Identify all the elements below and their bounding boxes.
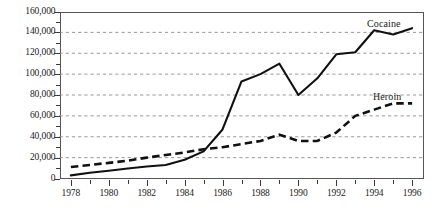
x-tick-major-1992 [336,180,337,186]
x-tick-major-1996 [412,180,413,186]
y-tick-major-60000 [54,116,60,117]
y-tick-label-160000: 160,000 [25,7,55,17]
series-label-heroin: Heroin [373,92,401,102]
y-tick-label-40000: 40,000 [30,132,56,142]
x-tick-major-1978 [71,180,72,186]
x-tick-label-1986: 1986 [203,189,243,199]
x-tick-minor-1993 [355,180,356,184]
y-tick-major-20000 [54,158,60,159]
y-tick-major-0 [54,179,60,180]
y-tick-label-140000: 140,000 [25,27,55,37]
drug-arrests-line-chart: 020,00040,00060,00080,000100,000120,0001… [0,0,446,212]
y-tick-major-140000 [54,32,60,33]
x-tick-minor-1985 [204,180,205,184]
x-tick-label-1980: 1980 [89,189,129,199]
x-tick-major-1980 [109,180,110,186]
x-tick-minor-1981 [128,180,129,184]
y-tick-minor-10000 [56,168,60,169]
y-tick-minor-90000 [56,85,60,86]
x-tick-major-1986 [223,180,224,186]
x-tick-label-1994: 1994 [354,189,394,199]
series-label-cocaine: Cocaine [367,19,400,29]
x-tick-label-1978: 1978 [51,189,91,199]
y-tick-major-80000 [54,95,60,96]
y-tick-minor-70000 [56,105,60,106]
x-tick-label-1982: 1982 [127,189,167,199]
x-tick-major-1990 [298,180,299,186]
x-tick-minor-1987 [242,180,243,184]
x-tick-label-1990: 1990 [278,189,318,199]
x-tick-label-1988: 1988 [240,189,280,199]
y-tick-major-40000 [54,137,60,138]
x-tick-major-1988 [260,180,261,186]
x-tick-minor-1989 [279,180,280,184]
x-tick-label-1992: 1992 [316,189,356,199]
series-line-cocaine [71,28,412,175]
y-tick-major-160000 [54,12,60,13]
x-tick-label-1984: 1984 [165,189,205,199]
x-tick-minor-1983 [166,180,167,184]
y-tick-minor-150000 [56,22,60,23]
y-tick-minor-30000 [56,147,60,148]
x-tick-major-1982 [147,180,148,186]
y-tick-label-60000: 60,000 [30,111,56,121]
x-tick-minor-1979 [90,180,91,184]
x-tick-major-1984 [185,180,186,186]
y-tick-major-100000 [54,74,60,75]
y-tick-minor-110000 [56,64,60,65]
x-tick-major-1994 [374,180,375,186]
y-tick-label-20000: 20,000 [30,153,56,163]
y-tick-label-100000: 100,000 [25,69,55,79]
y-tick-minor-130000 [56,43,60,44]
y-tick-major-120000 [54,53,60,54]
x-tick-label-1996: 1996 [392,189,432,199]
x-tick-minor-1995 [393,180,394,184]
x-tick-minor-1991 [317,180,318,184]
y-tick-minor-50000 [56,126,60,127]
y-tick-label-120000: 120,000 [25,48,55,58]
y-tick-label-80000: 80,000 [30,90,56,100]
gridlines [60,32,424,157]
